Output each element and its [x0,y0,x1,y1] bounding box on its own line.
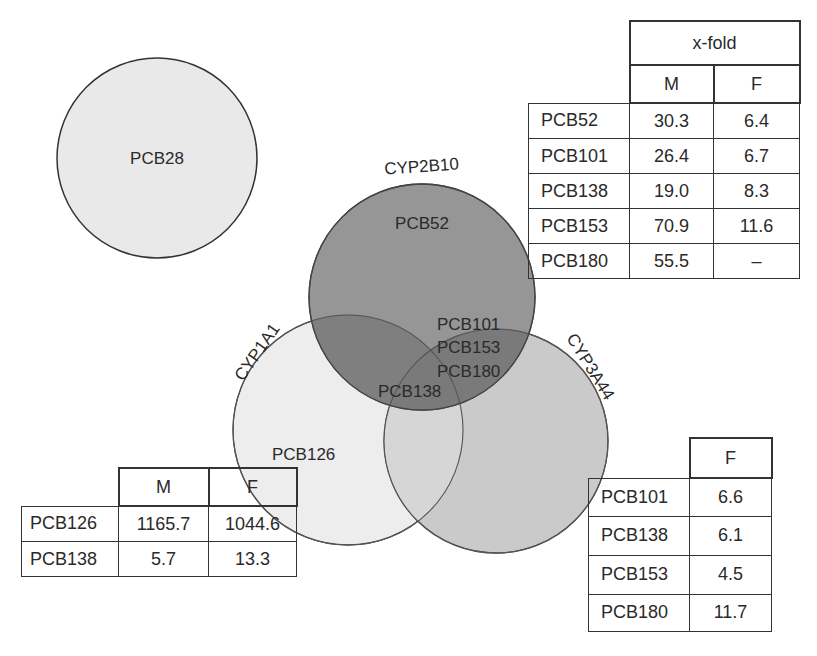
cell-m: 19.0 [630,174,714,209]
cell-m: 5.7 [119,542,209,577]
cell-f: 4.5 [690,555,772,594]
cell-f: 6.1 [690,516,772,555]
col-header-f: F [209,468,297,506]
cell-m: 26.4 [630,139,714,174]
cyp3a44-fold-table: F PCB101 6.6 PCB138 6.1 PCB153 4.5 PCB18… [588,437,773,632]
row-label: PCB126 [22,506,119,542]
pcb180-label: PCB180 [437,362,500,381]
pcb101-label: PCB101 [437,315,500,334]
table-row: PCB126 1165.7 1044.6 [22,506,297,542]
cyp1a1-fold-table: M F PCB126 1165.7 1044.6 PCB138 5.7 13.3 [21,467,298,577]
cell-f: 8.3 [714,174,800,209]
row-label: PCB180 [529,244,630,279]
table-row: PCB138 5.7 13.3 [22,542,297,577]
table-row: PCB180 11.7 [589,594,772,631]
row-label: PCB153 [589,555,690,594]
col-header-f: F [714,65,800,103]
col-header-f: F [690,438,772,478]
pcb126-label: PCB126 [272,445,335,464]
row-label: PCB101 [589,478,690,516]
cell-f: 11.6 [714,209,800,244]
pcb153-label: PCB153 [437,338,500,357]
row-label: PCB101 [529,139,630,174]
cell-f: 6.7 [714,139,800,174]
cell-f: – [714,244,800,279]
table-row: PCB138 6.1 [589,516,772,555]
row-label: PCB138 [22,542,119,577]
cyp2b10-fold-table: x-fold M F PCB52 30.3 6.4 PCB101 26.4 6.… [528,20,801,279]
row-label: PCB52 [529,103,630,139]
cyp2b10-circle-label: CYP2B10 [384,154,460,178]
table-row: PCB101 26.4 6.7 [529,139,800,174]
cell-f: 1044.6 [209,506,297,542]
table-row: PCB138 19.0 8.3 [529,174,800,209]
row-label: PCB138 [589,516,690,555]
cell-f: 6.6 [690,478,772,516]
cell-m: 70.9 [630,209,714,244]
cell-f: 11.7 [690,594,772,631]
col-header-m: M [630,65,714,103]
cell-f: 13.3 [209,542,297,577]
pcb138-label: PCB138 [378,382,441,401]
table-row: PCB153 4.5 [589,555,772,594]
table-row: PCB101 6.6 [589,478,772,516]
cell-m: 55.5 [630,244,714,279]
table-row: PCB153 70.9 11.6 [529,209,800,244]
row-label: PCB138 [529,174,630,209]
pcb28-label: PCB28 [130,149,184,168]
xfold-header: x-fold [630,21,800,65]
row-label: PCB153 [529,209,630,244]
cell-f: 6.4 [714,103,800,139]
cell-m: 1165.7 [119,506,209,542]
cell-m: 30.3 [630,103,714,139]
table-row: PCB52 30.3 6.4 [529,103,800,139]
pcb52-label: PCB52 [395,214,449,233]
row-label: PCB180 [589,594,690,631]
col-header-m: M [119,468,209,506]
table-row: PCB180 55.5 – [529,244,800,279]
